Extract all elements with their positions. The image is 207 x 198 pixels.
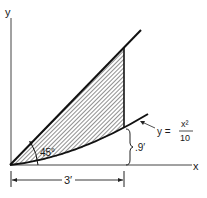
x-axis-label: x: [193, 160, 199, 172]
diagram-canvas: y x 45° .9′ 3′ y = x² 10: [0, 0, 207, 198]
angle-label: 45°: [40, 147, 55, 158]
curve-equation-denominator: 10: [180, 133, 190, 143]
curve-equation-lhs: y =: [157, 126, 171, 137]
width-label: 3′: [64, 174, 72, 186]
height-label: .9′: [135, 142, 145, 153]
curve-equation-numerator: x²: [181, 119, 189, 129]
width-arrow-right-icon: [118, 178, 123, 182]
y-axis-label: y: [5, 6, 11, 18]
curve-equation: y = x² 10: [157, 119, 193, 143]
height-brace: [126, 129, 133, 165]
width-arrow-left-icon: [12, 178, 17, 182]
